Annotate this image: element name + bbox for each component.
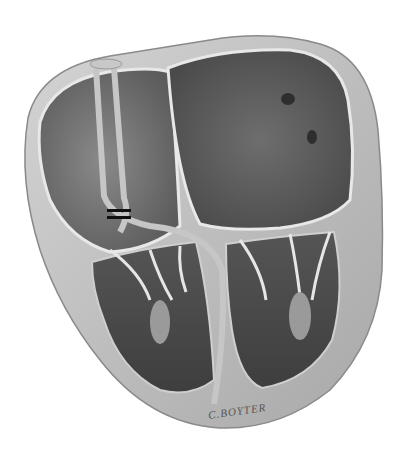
- papillary-muscle: [289, 292, 311, 340]
- lead-electrode-marker: [107, 209, 131, 212]
- heart-illustration: C.BOYTER: [0, 0, 407, 450]
- pulmonary-vein-opening: [281, 93, 295, 105]
- lead-electrode-marker: [107, 216, 131, 219]
- heart-diagram: [0, 0, 407, 450]
- superior-vena-cava: [90, 59, 122, 69]
- pulmonary-vein-opening: [307, 130, 317, 144]
- papillary-muscle: [150, 300, 170, 344]
- left-atrium: [168, 50, 353, 230]
